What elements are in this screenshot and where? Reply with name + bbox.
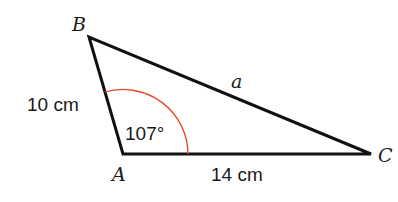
side-bc-label: a bbox=[231, 70, 242, 92]
triangle-diagram: B A C 10 cm 14 cm a 107° bbox=[0, 0, 398, 202]
side-ab-label: 10 cm bbox=[27, 94, 79, 115]
vertex-label-a: A bbox=[110, 163, 126, 185]
vertex-label-b: B bbox=[71, 13, 86, 35]
angle-a-label: 107° bbox=[125, 123, 164, 144]
angle-a-arc bbox=[105, 89, 188, 154]
side-ac-label: 14 cm bbox=[211, 164, 263, 185]
vertex-label-c: C bbox=[378, 144, 393, 166]
